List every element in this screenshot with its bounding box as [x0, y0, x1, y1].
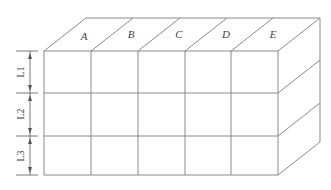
- layer-label-l3: L3: [15, 150, 26, 161]
- front-row-lines: [44, 93, 278, 136]
- column-label-d: D: [221, 28, 230, 40]
- column-label-a: A: [80, 30, 88, 42]
- layer-label-l1: L1: [15, 66, 26, 77]
- front-face: [44, 51, 278, 175]
- column-label-c: C: [175, 28, 183, 40]
- front-column-lines: [91, 51, 231, 175]
- column-label-b: B: [128, 28, 135, 40]
- grid-box-diagram: A B C D E L1 L2 L3: [0, 0, 331, 190]
- column-label-e: E: [269, 28, 277, 40]
- right-face: [278, 18, 320, 175]
- layer-label-l2: L2: [15, 108, 26, 119]
